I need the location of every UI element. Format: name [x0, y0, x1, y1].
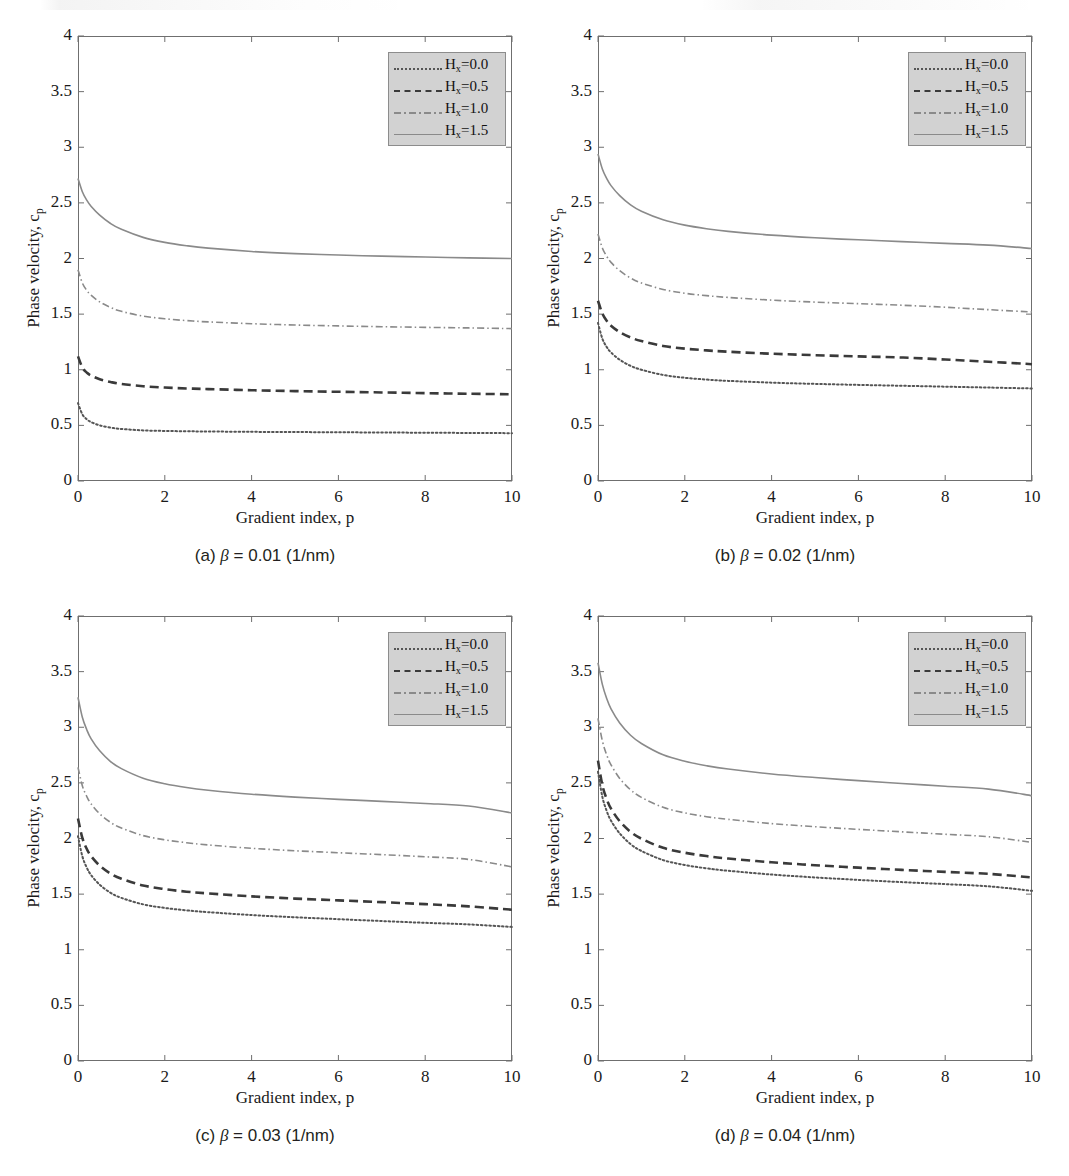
- x-tick-label: 2: [665, 487, 705, 507]
- legend-line-sample-solid: [914, 134, 962, 137]
- y-tick-label: 1: [30, 939, 72, 959]
- y-tick-label: 2: [550, 248, 592, 268]
- legend-line-sample-dashdot: [914, 112, 962, 114]
- y-tick-label: 3.5: [30, 81, 72, 101]
- x-tick-label: 6: [318, 487, 358, 507]
- x-tick-label: 4: [232, 1067, 272, 1087]
- x-tick-label: 4: [752, 487, 792, 507]
- legend-item-2[interactable]: Hx=1.0: [389, 681, 507, 704]
- y-tick-label: 2.5: [550, 772, 592, 792]
- y-tick-label: 1: [550, 359, 592, 379]
- caption-index: (d): [715, 1126, 741, 1145]
- y-tick-label: 1.5: [550, 303, 592, 323]
- legend-item-2[interactable]: Hx=1.0: [909, 681, 1027, 704]
- legend-item-2[interactable]: Hx=1.0: [909, 101, 1027, 124]
- y-tick-label: 0.5: [30, 994, 72, 1014]
- legend-label: Hx=1.0: [965, 680, 1008, 698]
- x-tick-label: 2: [145, 1067, 185, 1087]
- y-axis-label: Phase velocity, cp: [22, 68, 48, 468]
- legend-item-1[interactable]: Hx=0.5: [389, 659, 507, 682]
- legend-label: Hx=1.5: [965, 702, 1008, 720]
- legend-item-3[interactable]: Hx=1.5: [389, 703, 507, 726]
- x-axis-label: Gradient index, p: [598, 508, 1032, 528]
- legend-item-1[interactable]: Hx=0.5: [389, 79, 507, 102]
- x-tick-label: 8: [405, 487, 445, 507]
- y-tick-label: 2: [30, 248, 72, 268]
- chart-legend[interactable]: Hx=0.0Hx=0.5Hx=1.0Hx=1.5: [908, 632, 1026, 726]
- x-tick-label: 8: [925, 487, 965, 507]
- legend-item-3[interactable]: Hx=1.5: [909, 703, 1027, 726]
- legend-item-0[interactable]: Hx=0.0: [909, 637, 1027, 660]
- legend-label: Hx=0.5: [965, 658, 1008, 676]
- caption-value: = 0.03 (1/nm): [228, 1126, 334, 1145]
- x-tick-label: 4: [232, 487, 272, 507]
- legend-item-3[interactable]: Hx=1.5: [389, 123, 507, 146]
- legend-line-sample-dashdot: [394, 692, 442, 694]
- y-tick-label: 2.5: [550, 192, 592, 212]
- x-tick-label: 2: [145, 487, 185, 507]
- legend-label: Hx=0.5: [445, 658, 488, 676]
- x-axis-label: Gradient index, p: [78, 1088, 512, 1108]
- y-tick-label: 2.5: [30, 192, 72, 212]
- legend-label: Hx=0.0: [965, 636, 1008, 654]
- chart-legend[interactable]: Hx=0.0Hx=0.5Hx=1.0Hx=1.5: [388, 632, 506, 726]
- y-tick-label: 3.5: [30, 661, 72, 681]
- plot-area-c: Hx=0.0Hx=0.5Hx=1.0Hx=1.5: [78, 616, 512, 1061]
- legend-item-3[interactable]: Hx=1.5: [909, 123, 1027, 146]
- x-tick-label: 2: [665, 1067, 705, 1087]
- y-tick-label: 0.5: [550, 994, 592, 1014]
- y-axis-label: Phase velocity, cp: [542, 68, 568, 468]
- chart-panel-c: Phase velocity, cpHx=0.0Hx=0.5Hx=1.0Hx=1…: [0, 588, 520, 1168]
- y-tick-label: 3.5: [550, 81, 592, 101]
- legend-line-sample-solid: [394, 714, 442, 717]
- legend-label: Hx=1.0: [445, 680, 488, 698]
- legend-line-sample-dotted: [394, 68, 442, 72]
- x-tick-label: 0: [578, 1067, 618, 1087]
- legend-line-sample-dashdot: [914, 692, 962, 694]
- x-tick-label: 10: [1012, 487, 1052, 507]
- caption-index: (a): [195, 546, 221, 565]
- y-tick-label: 1.5: [550, 883, 592, 903]
- x-tick-label: 6: [318, 1067, 358, 1087]
- legend-label: Hx=1.0: [965, 100, 1008, 118]
- y-tick-label: 4: [30, 605, 72, 625]
- legend-item-0[interactable]: Hx=0.0: [389, 57, 507, 80]
- caption-index: (b): [715, 546, 741, 565]
- y-tick-label: 1: [30, 359, 72, 379]
- legend-item-2[interactable]: Hx=1.0: [389, 101, 507, 124]
- legend-label: Hx=0.0: [445, 56, 488, 74]
- y-tick-label: 4: [550, 605, 592, 625]
- y-tick-label: 3: [30, 136, 72, 156]
- x-tick-label: 0: [58, 487, 98, 507]
- x-tick-label: 6: [838, 1067, 878, 1087]
- y-tick-label: 3: [550, 716, 592, 736]
- legend-item-0[interactable]: Hx=0.0: [909, 57, 1027, 80]
- y-tick-label: 4: [30, 25, 72, 45]
- chart-legend[interactable]: Hx=0.0Hx=0.5Hx=1.0Hx=1.5: [908, 52, 1026, 146]
- x-tick-label: 4: [752, 1067, 792, 1087]
- chart-legend[interactable]: Hx=0.0Hx=0.5Hx=1.0Hx=1.5: [388, 52, 506, 146]
- y-tick-label: 2: [30, 828, 72, 848]
- legend-item-1[interactable]: Hx=0.5: [909, 659, 1027, 682]
- legend-line-sample-solid: [914, 714, 962, 717]
- legend-line-sample-dashed: [914, 90, 962, 94]
- legend-label: Hx=1.0: [445, 100, 488, 118]
- legend-line-sample-dotted: [394, 648, 442, 652]
- panel-caption-c: (c) β = 0.03 (1/nm): [40, 1126, 490, 1146]
- figure-root: Phase velocity, cpHx=0.0Hx=0.5Hx=1.0Hx=1…: [0, 0, 1069, 1176]
- legend-label: Hx=1.5: [965, 122, 1008, 140]
- legend-item-0[interactable]: Hx=0.0: [389, 637, 507, 660]
- legend-line-sample-dashed: [394, 90, 442, 94]
- y-tick-label: 3.5: [550, 661, 592, 681]
- legend-item-1[interactable]: Hx=0.5: [909, 79, 1027, 102]
- legend-line-sample-dashdot: [394, 112, 442, 114]
- panel-caption-d: (d) β = 0.04 (1/nm): [560, 1126, 1010, 1146]
- panel-caption-a: (a) β = 0.01 (1/nm): [40, 546, 490, 566]
- y-tick-label: 0.5: [30, 414, 72, 434]
- chart-panel-d: Phase velocity, cpHx=0.0Hx=0.5Hx=1.0Hx=1…: [520, 588, 1040, 1168]
- y-tick-label: 1.5: [30, 883, 72, 903]
- y-axis-label: Phase velocity, cp: [542, 648, 568, 1048]
- y-tick-label: 3: [30, 716, 72, 736]
- y-tick-label: 0.5: [550, 414, 592, 434]
- legend-line-sample-dotted: [914, 68, 962, 72]
